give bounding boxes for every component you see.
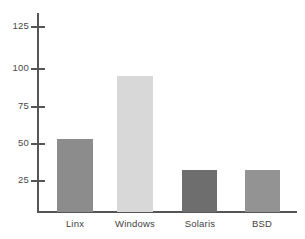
x-tick-label-solaris: Solaris	[175, 218, 225, 229]
y-tick-label-4: 125	[0, 21, 29, 31]
y-tick-mark-0	[31, 180, 45, 182]
bar-chart: 25 50 75 100 125 Linx Windows Solaris BS…	[0, 0, 305, 239]
plot-area: 25 50 75 100 125 Linx Windows Solaris BS…	[0, 0, 305, 239]
y-tick-mark-3	[31, 68, 45, 70]
y-tick-mark-2	[31, 106, 45, 108]
x-tick-label-windows: Windows	[107, 218, 163, 229]
bar-bsd[interactable]	[245, 170, 280, 212]
y-tick-mark-1	[31, 143, 45, 145]
y-tick-label-2: 75	[0, 101, 29, 111]
bar-linx[interactable]	[57, 139, 93, 213]
y-tick-label-3: 100	[0, 63, 29, 73]
y-tick-label-1: 50	[0, 138, 29, 148]
bar-windows[interactable]	[117, 76, 153, 213]
y-axis-line	[37, 13, 39, 213]
x-tick-label-linx: Linx	[55, 218, 95, 229]
y-tick-mark-4	[31, 26, 45, 28]
y-tick-label-0: 25	[0, 175, 29, 185]
x-tick-label-bsd: BSD	[242, 218, 282, 229]
bar-solaris[interactable]	[182, 170, 217, 212]
